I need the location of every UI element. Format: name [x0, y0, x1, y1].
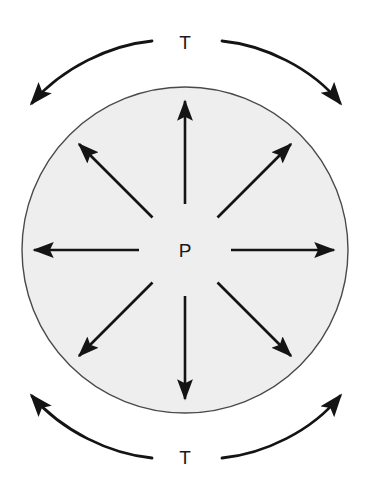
torque-label-bottom: T	[179, 447, 191, 468]
pressure-label: P	[179, 240, 192, 261]
torque-label-top: T	[179, 32, 191, 53]
figure-container: T P T	[0, 0, 370, 489]
pressure-torsion-diagram: T P T	[0, 0, 370, 489]
